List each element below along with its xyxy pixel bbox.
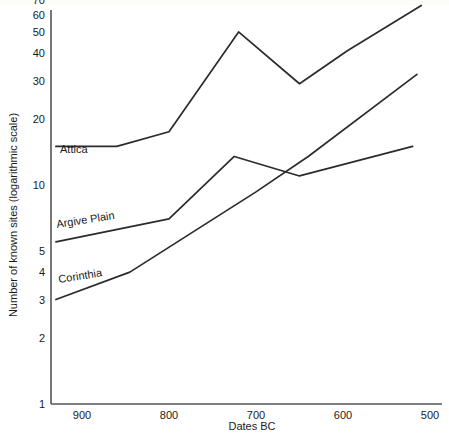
series-line-corinthia [56, 74, 417, 299]
y-axis-tick-labels: 1234510203040506070 [33, 0, 45, 410]
y-tick-label-50: 50 [33, 26, 45, 38]
series-lines [56, 6, 421, 300]
y-tick-label-3: 3 [39, 294, 45, 306]
series-inline-labels: AtticaArgive PlainCorinthia [55, 143, 115, 285]
x-axis-title: Dates BC [228, 420, 275, 432]
x-tick-label-800: 800 [160, 409, 178, 421]
series-label-attica: Attica [60, 143, 88, 155]
x-tick-label-900: 900 [73, 409, 91, 421]
series-label-argive-plain: Argive Plain [55, 209, 115, 230]
y-tick-label-5: 5 [39, 245, 45, 257]
x-tick-label-600: 600 [334, 409, 352, 421]
y-tick-label-2: 2 [39, 332, 45, 344]
line-chart: 1234510203040506070 900800700600500 Atti… [0, 0, 449, 442]
y-tick-label-10: 10 [33, 179, 45, 191]
y-tick-label-30: 30 [33, 75, 45, 87]
series-line-attica [56, 6, 421, 147]
y-tick-label-60: 60 [33, 9, 45, 21]
y-tick-label-4: 4 [39, 266, 45, 278]
series-label-corinthia: Corinthia [57, 266, 103, 285]
x-tick-label-500: 500 [421, 409, 439, 421]
series-line-argive-plain [56, 146, 413, 241]
y-tick-label-70: 70 [33, 0, 45, 6]
y-tick-label-1: 1 [39, 398, 45, 410]
y-tick-label-40: 40 [33, 47, 45, 59]
y-axis-title: Number of known sites (logarithmic scale… [7, 113, 19, 317]
y-tick-label-20: 20 [33, 113, 45, 125]
